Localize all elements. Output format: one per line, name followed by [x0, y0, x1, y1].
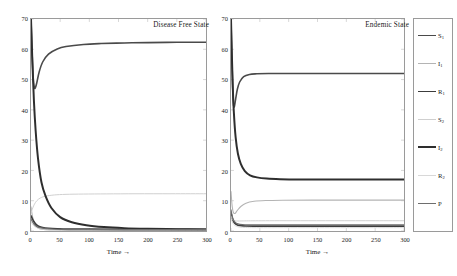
x-tick-label: 100 — [284, 236, 294, 243]
series-line-s2 — [31, 194, 206, 213]
series-line-p — [231, 210, 404, 225]
legend: S1I1R1S2I2R2P — [413, 18, 453, 232]
panel-endemic: All Population → 010203040506070 Endemic… — [200, 0, 415, 276]
x-tick-label: 200 — [143, 236, 153, 243]
x-tick-label: 50 — [256, 236, 262, 243]
legend-label-subscript: 2 — [440, 147, 442, 152]
figure-container: All Population → 010203040506070 Disease… — [0, 0, 457, 276]
y-tick-label: 0 — [225, 229, 228, 236]
series-line-s1 — [231, 19, 404, 107]
legend-label-subscript: 1 — [440, 63, 442, 68]
y-tick-label: 50 — [222, 76, 228, 83]
legend-label-i1: I1 — [438, 60, 443, 67]
y-tick-label: 60 — [22, 45, 28, 52]
legend-swatch-r1 — [418, 91, 436, 92]
plot-area-disease-free — [30, 18, 207, 232]
legend-label-subscript: 1 — [442, 35, 444, 40]
plot-area-endemic — [230, 18, 405, 232]
plot-svg-endemic — [231, 19, 404, 231]
x-tick-labels-right: 050100150200250300 — [230, 234, 405, 246]
x-tick-label: 50 — [56, 236, 62, 243]
legend-item-s1[interactable]: S1 — [418, 29, 452, 41]
x-tick-label: 150 — [313, 236, 323, 243]
legend-label-subscript: 2 — [442, 175, 444, 180]
x-tick-label: 0 — [28, 236, 31, 243]
legend-item-s2[interactable]: S2 — [418, 113, 452, 125]
panel-title-endemic: Endemic State — [365, 21, 409, 29]
x-axis-label-right: Time → — [230, 248, 405, 256]
y-tick-label: 40 — [222, 106, 228, 113]
legend-swatch-r2 — [418, 175, 436, 176]
y-tick-label: 30 — [222, 137, 228, 144]
series-line-i1 — [31, 207, 206, 231]
legend-label-p: P — [438, 200, 442, 207]
series-line-i2 — [231, 19, 404, 180]
panel-disease-free: All Population → 010203040506070 Disease… — [0, 0, 215, 276]
legend-label-subscript: 1 — [442, 91, 444, 96]
x-tick-label: 300 — [400, 236, 410, 243]
legend-item-p[interactable]: P — [418, 197, 452, 209]
y-tick-label: 10 — [222, 198, 228, 205]
x-axis-label-left: Time → — [30, 248, 207, 256]
y-tick-label: 60 — [222, 45, 228, 52]
legend-swatch-s1 — [418, 35, 436, 36]
y-tick-label: 30 — [22, 137, 28, 144]
legend-label-r2: R2 — [438, 172, 445, 179]
legend-item-i2[interactable]: I2 — [418, 141, 452, 153]
x-tick-label: 250 — [371, 236, 381, 243]
x-tick-labels-left: 050100150200250300 — [30, 234, 207, 246]
x-tick-label: 250 — [173, 236, 183, 243]
legend-item-r1[interactable]: R1 — [418, 85, 452, 97]
y-tick-labels-right: 010203040506070 — [212, 18, 228, 232]
legend-swatch-i1 — [418, 63, 436, 64]
legend-swatch-s2 — [418, 119, 436, 120]
legend-label-s2: S2 — [438, 116, 444, 123]
x-tick-label: 150 — [114, 236, 124, 243]
series-line-i2 — [31, 19, 206, 229]
y-tick-label: 10 — [22, 198, 28, 205]
x-tick-label: 100 — [84, 236, 94, 243]
legend-item-i1[interactable]: I1 — [418, 57, 452, 69]
y-tick-label: 70 — [22, 15, 28, 22]
series-line-s1 — [31, 19, 206, 89]
y-tick-label: 20 — [22, 167, 28, 174]
legend-label-r1: R1 — [438, 88, 445, 95]
series-line-i1 — [231, 192, 404, 214]
y-tick-label: 70 — [222, 15, 228, 22]
legend-label-s1: S1 — [438, 32, 444, 39]
y-tick-label: 20 — [222, 167, 228, 174]
x-tick-label: 0 — [228, 236, 231, 243]
x-tick-label: 200 — [342, 236, 352, 243]
legend-label-subscript: 2 — [442, 119, 444, 124]
series-line-r1 — [231, 213, 404, 226]
legend-swatch-p — [418, 203, 436, 204]
y-tick-label: 0 — [25, 229, 28, 236]
y-tick-label: 50 — [22, 76, 28, 83]
legend-item-r2[interactable]: R2 — [418, 169, 452, 181]
series-line-s2 — [231, 216, 404, 221]
y-tick-labels-left: 010203040506070 — [12, 18, 28, 232]
plot-svg-disease-free — [31, 19, 206, 231]
y-tick-label: 40 — [22, 106, 28, 113]
legend-swatch-i2 — [418, 146, 436, 148]
legend-label-i2: I2 — [438, 144, 443, 151]
